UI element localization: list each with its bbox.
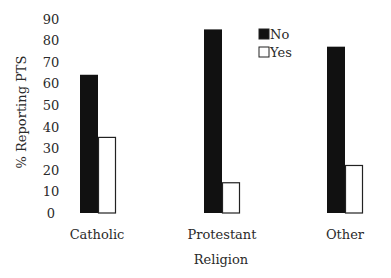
y-tick-label: 80 [43,33,60,48]
bar-no-catholic [80,75,98,213]
y-tick-label: 30 [43,141,60,156]
legend-swatch-yes [259,47,269,57]
category-label: Other [326,227,365,242]
y-tick-label: 50 [43,98,60,113]
y-tick-label: 70 [43,55,60,70]
bars [80,29,363,213]
y-tick-label: 90 [43,12,60,27]
bar-yes-other [346,165,363,213]
y-axis-ticks: 0102030405060708090 [43,12,60,221]
y-tick-label: 0 [47,206,55,221]
x-axis-categories: CatholicProtestantOther [70,227,365,242]
legend-swatch-no [259,29,269,39]
legend: NoYes [259,27,292,60]
y-tick-label: 60 [43,76,60,91]
bar-chart: 0102030405060708090 CatholicProtestantOt… [0,0,391,278]
bar-yes-catholic [99,137,116,213]
y-tick-label: 20 [43,163,60,178]
bar-no-protestant [204,29,222,213]
x-axis-label: Religion [194,252,249,267]
y-tick-label: 40 [43,120,60,135]
category-label: Protestant [188,227,258,242]
legend-label-yes: Yes [269,45,292,60]
bar-no-other [327,47,345,213]
y-tick-label: 10 [43,184,60,199]
y-axis-label: % Reporting PTS [14,56,29,169]
category-label: Catholic [70,227,125,242]
bar-yes-protestant [223,183,240,213]
legend-label-no: No [270,27,289,42]
